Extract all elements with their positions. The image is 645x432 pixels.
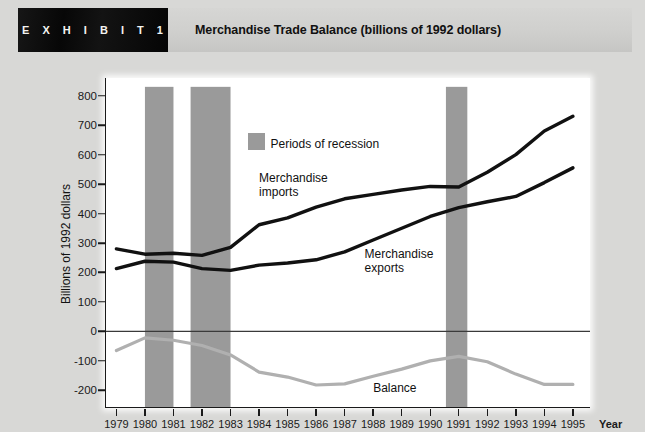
y-axis-tick-label: 700 bbox=[53, 119, 97, 131]
y-axis-tick-mark bbox=[98, 124, 105, 126]
y-axis-tick-label: 100 bbox=[53, 296, 97, 308]
annotation-balance-line: Balance bbox=[373, 381, 416, 395]
x-axis-tick-mark bbox=[572, 409, 573, 416]
annotation-merchandise-exports-line: exports bbox=[365, 261, 434, 275]
y-axis-tick-mark bbox=[98, 95, 105, 97]
legend-label-recession: Periods of recession bbox=[270, 137, 379, 151]
x-axis-tick-label: 1991 bbox=[447, 418, 471, 430]
x-axis-tick-label: 1980 bbox=[133, 418, 157, 430]
annotation-merchandise-exports-line: Merchandise bbox=[365, 247, 434, 261]
x-axis-tick-label: 1994 bbox=[532, 418, 556, 430]
x-axis-tick-mark bbox=[230, 409, 231, 416]
exhibit-number-tab: E X H I B I T 1 bbox=[18, 8, 168, 52]
legend-swatch-recession bbox=[248, 133, 265, 150]
annotation-merchandise-imports-line: imports bbox=[259, 185, 328, 199]
x-axis-tick-label: 1993 bbox=[504, 418, 528, 430]
y-axis-tick-label: 400 bbox=[53, 208, 97, 220]
x-axis-tick-label: 1988 bbox=[361, 418, 385, 430]
x-axis-tick-mark bbox=[430, 409, 431, 416]
y-axis-tick-label: 600 bbox=[53, 149, 97, 161]
y-axis-tick-mark bbox=[98, 213, 105, 215]
x-axis-tick-mark bbox=[144, 409, 145, 416]
x-axis-tick-mark bbox=[201, 409, 202, 416]
x-axis-title: Year bbox=[599, 418, 622, 430]
x-axis-tick-label: 1995 bbox=[561, 418, 585, 430]
x-axis-tick-label: 1981 bbox=[161, 418, 185, 430]
plot-area bbox=[105, 78, 590, 408]
x-axis-tick-mark bbox=[458, 409, 459, 416]
y-axis-tick-mark bbox=[98, 242, 105, 244]
annotation-merchandise-imports-line: Merchandise bbox=[259, 171, 328, 185]
annotation-merchandise-exports: Merchandiseexports bbox=[365, 247, 434, 275]
x-axis-tick-label: 1992 bbox=[475, 418, 499, 430]
x-axis-tick-mark bbox=[544, 409, 545, 416]
y-axis-tick-mark bbox=[98, 360, 105, 362]
annotation-balance: Balance bbox=[373, 381, 416, 395]
x-axis-tick-label: 1989 bbox=[389, 418, 413, 430]
y-axis-tick-label: -100 bbox=[53, 355, 97, 367]
y-axis-tick-mark bbox=[98, 154, 105, 156]
x-axis-tick-label: 1979 bbox=[104, 418, 128, 430]
x-axis-tick-label: 1990 bbox=[418, 418, 442, 430]
y-axis-tick-label: 500 bbox=[53, 178, 97, 190]
x-axis-tick-label: 1982 bbox=[190, 418, 214, 430]
x-axis-tick-mark bbox=[173, 409, 174, 416]
y-axis-tick-label: 200 bbox=[53, 266, 97, 278]
x-axis-tick-mark bbox=[315, 409, 316, 416]
x-axis-tick-mark bbox=[287, 409, 288, 416]
chart-canvas bbox=[105, 78, 590, 408]
chart-figure: Billions of 1992 dollars 800700600500400… bbox=[0, 56, 645, 432]
x-axis-tick-label: 1983 bbox=[218, 418, 242, 430]
x-axis-tick-mark bbox=[401, 409, 402, 416]
y-axis-tick-label: 0 bbox=[53, 325, 97, 337]
x-axis-tick-mark bbox=[515, 409, 516, 416]
x-axis-tick-label: 1987 bbox=[332, 418, 356, 430]
recession-band bbox=[446, 87, 467, 408]
x-axis-tick-mark bbox=[372, 409, 373, 416]
y-axis-tick-label: -200 bbox=[53, 384, 97, 396]
y-axis-tick-label: 300 bbox=[53, 237, 97, 249]
series-line-balance bbox=[116, 338, 572, 385]
exhibit-title: Merchandise Trade Balance (billions of 1… bbox=[195, 8, 501, 52]
recession-band bbox=[145, 87, 174, 408]
y-axis-tick-mark bbox=[98, 183, 105, 185]
x-axis-tick-mark bbox=[487, 409, 488, 416]
x-axis-tick-mark bbox=[258, 409, 259, 416]
y-axis-tick-mark bbox=[98, 331, 105, 333]
y-axis-tick-mark bbox=[98, 301, 105, 303]
y-axis-tick-mark bbox=[98, 272, 105, 274]
exhibit-header-band: E X H I B I T 1 Merchandise Trade Balanc… bbox=[18, 8, 632, 52]
x-axis-tick-label: 1985 bbox=[275, 418, 299, 430]
y-axis-tick-label: 800 bbox=[53, 90, 97, 102]
x-axis-tick-label: 1984 bbox=[247, 418, 271, 430]
annotation-merchandise-imports: Merchandiseimports bbox=[259, 171, 328, 199]
exhibit-number-label: E X H I B I T 1 bbox=[18, 24, 168, 36]
x-axis-tick-label: 1986 bbox=[304, 418, 328, 430]
x-axis-tick-mark bbox=[344, 409, 345, 416]
x-axis-tick-mark bbox=[116, 409, 117, 416]
y-axis-tick-mark bbox=[98, 390, 105, 392]
